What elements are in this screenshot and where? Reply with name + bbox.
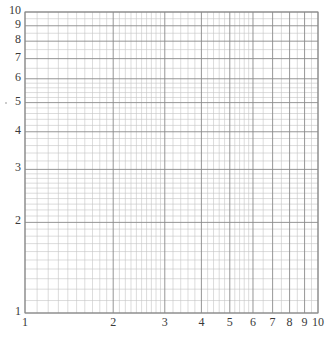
grid-lines <box>25 12 318 313</box>
x-tick-label: 2 <box>103 316 123 328</box>
x-tick-label: 4 <box>191 316 211 328</box>
x-tick-label: 3 <box>155 316 175 328</box>
y-tick-label: 4 <box>0 124 21 136</box>
y-tick-label: 10 <box>0 4 21 16</box>
x-tick-label: 6 <box>243 316 263 328</box>
y-tick-label: 8 <box>0 33 21 45</box>
y-tick-label: 5 <box>0 95 21 107</box>
y-tick-label: 6 <box>0 71 21 83</box>
y-tick-label: 7 <box>0 51 21 63</box>
y-tick-label: 9 <box>0 18 21 30</box>
x-tick-label: 1 <box>15 316 35 328</box>
x-tick-label: 5 <box>220 316 240 328</box>
speck-mark <box>5 102 7 104</box>
y-tick-label: 2 <box>0 214 21 226</box>
x-tick-label: 10 <box>308 316 328 328</box>
y-tick-label: 3 <box>0 161 21 173</box>
log-log-grid <box>25 12 318 313</box>
